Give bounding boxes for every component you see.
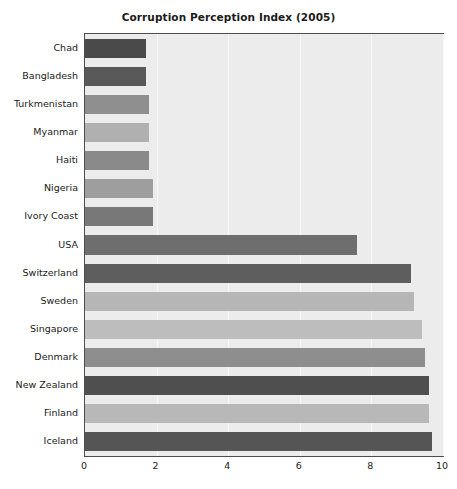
y-tick-label: Ivory Coast <box>0 210 78 221</box>
x-tick-label: 8 <box>367 460 373 471</box>
bar <box>85 95 149 114</box>
y-tick-label: Haiti <box>0 154 78 165</box>
bar <box>85 376 429 395</box>
x-axis-labels: 0246810 <box>84 460 442 480</box>
bar-row <box>85 207 443 226</box>
y-tick-label: Sweden <box>0 295 78 306</box>
bar-row <box>85 264 443 283</box>
y-tick-label: Finland <box>0 407 78 418</box>
bar-row <box>85 95 443 114</box>
y-tick-label: Denmark <box>0 351 78 362</box>
y-tick-label: USA <box>0 239 78 250</box>
bar <box>85 207 153 226</box>
bar-row <box>85 404 443 423</box>
bar-row <box>85 432 443 451</box>
bar <box>85 67 146 86</box>
bar-row <box>85 179 443 198</box>
bar-row <box>85 320 443 339</box>
bar-row <box>85 376 443 395</box>
bar-row <box>85 235 443 254</box>
bar <box>85 320 422 339</box>
chart-figure: Corruption Perception Index (2005) ChadB… <box>0 0 457 489</box>
x-tick-label: 2 <box>153 460 159 471</box>
bar <box>85 151 149 170</box>
chart-title: Corruption Perception Index (2005) <box>0 11 457 23</box>
bar <box>85 264 411 283</box>
x-tick-label: 10 <box>436 460 448 471</box>
plot-area <box>84 33 444 457</box>
x-tick-label: 6 <box>296 460 302 471</box>
y-tick-label: Turkmenistan <box>0 98 78 109</box>
y-tick-label: Iceland <box>0 435 78 446</box>
bar <box>85 432 432 451</box>
bar-row <box>85 348 443 367</box>
bar-row <box>85 39 443 58</box>
y-tick-label: Singapore <box>0 323 78 334</box>
bar <box>85 348 425 367</box>
y-tick-label: Bangladesh <box>0 70 78 81</box>
bar <box>85 235 357 254</box>
y-tick-label: Chad <box>0 42 78 53</box>
bar <box>85 179 153 198</box>
x-tick-label: 0 <box>81 460 87 471</box>
bar-row <box>85 151 443 170</box>
bar-row <box>85 123 443 142</box>
gridline <box>443 34 444 456</box>
bar <box>85 292 414 311</box>
bars-layer <box>85 34 443 456</box>
bar-row <box>85 67 443 86</box>
y-tick-label: New Zealand <box>0 379 78 390</box>
x-tick-label: 4 <box>224 460 230 471</box>
y-tick-label: Myanmar <box>0 126 78 137</box>
y-tick-label: Nigeria <box>0 182 78 193</box>
y-tick-label: Switzerland <box>0 267 78 278</box>
y-axis-labels: ChadBangladeshTurkmenistanMyanmarHaitiNi… <box>0 33 78 455</box>
bar <box>85 123 149 142</box>
bar-row <box>85 292 443 311</box>
bar <box>85 404 429 423</box>
bar <box>85 39 146 58</box>
